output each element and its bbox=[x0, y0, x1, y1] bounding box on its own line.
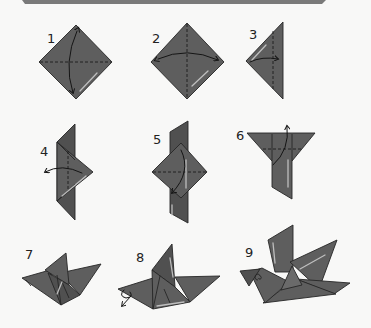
step-6: 6 bbox=[236, 126, 315, 199]
step-1: 1 bbox=[39, 25, 112, 99]
paper-square bbox=[151, 23, 224, 99]
step-8: 8 bbox=[118, 244, 220, 309]
bird-raised-wing bbox=[268, 225, 293, 272]
step-7: 7 bbox=[22, 247, 101, 305]
step-number: 6 bbox=[236, 128, 244, 143]
origami-diagram: 1 2 3 4 5 bbox=[0, 0, 371, 328]
step-number: 3 bbox=[249, 27, 257, 42]
step-number: 7 bbox=[25, 247, 33, 262]
step-number: 8 bbox=[136, 250, 144, 265]
paper-diamond bbox=[152, 143, 207, 198]
step-number: 4 bbox=[40, 144, 48, 159]
paper-funnel bbox=[247, 133, 315, 199]
step-number: 9 bbox=[245, 245, 253, 260]
step-5: 5 bbox=[152, 121, 207, 223]
step-number: 5 bbox=[153, 132, 161, 147]
step-3: 3 bbox=[246, 22, 283, 99]
step-2: 2 bbox=[151, 23, 224, 99]
step-4: 4 bbox=[40, 124, 93, 220]
step-9: 9 bbox=[240, 225, 350, 303]
step-number: 1 bbox=[47, 31, 55, 46]
step-number: 2 bbox=[152, 31, 160, 46]
